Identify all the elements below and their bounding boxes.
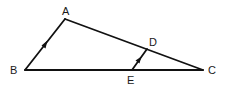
label-b: B xyxy=(10,64,17,76)
label-e: E xyxy=(127,74,134,86)
segment-ac xyxy=(65,19,203,70)
label-d: D xyxy=(149,36,157,48)
triangle-diagram: A B C D E xyxy=(0,0,230,92)
label-a: A xyxy=(62,5,70,17)
label-c: C xyxy=(208,64,216,76)
